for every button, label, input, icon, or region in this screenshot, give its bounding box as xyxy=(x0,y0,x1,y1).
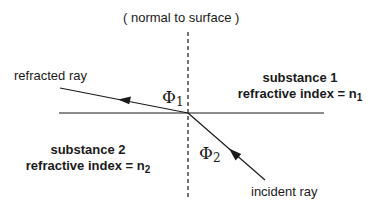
refracted-ray-label: refracted ray xyxy=(14,68,87,83)
normal-label: ( normal to surface ) xyxy=(123,10,239,25)
refraction-diagram xyxy=(0,0,379,214)
substance-1-label: substance 1 refractive index = n1 xyxy=(220,70,379,106)
substance-2-index: refractive index = n2 xyxy=(8,158,168,178)
angle-phi-1-label: Φ1 xyxy=(162,87,184,109)
incident-ray-label: incident ray xyxy=(251,184,317,199)
substance-1-index: refractive index = n1 xyxy=(220,86,379,106)
substance-2-label: substance 2 refractive index = n2 xyxy=(8,142,168,178)
angle-phi-2-label: Φ2 xyxy=(199,143,221,165)
incident-ray-arrow-icon xyxy=(229,149,241,161)
substance-1-name: substance 1 xyxy=(220,70,379,86)
substance-2-name: substance 2 xyxy=(8,142,168,158)
